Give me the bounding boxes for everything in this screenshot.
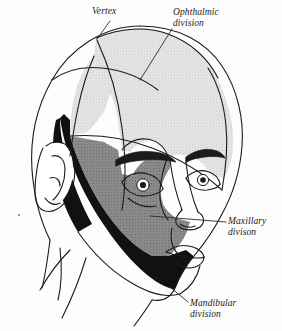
label-ophthalmic-division: Ophthalmic division — [173, 7, 219, 28]
label-mandibular-line1: Mandibular — [190, 298, 236, 308]
label-vertex: Vertex — [92, 6, 116, 17]
neck-contour-left — [58, 248, 61, 300]
anatomical-figure: Vertex Ophthalmic division Maxillary div… — [0, 0, 282, 331]
nose-bridge-left — [170, 160, 182, 210]
label-mandibular-line2: division — [190, 309, 236, 320]
right-pupil — [200, 177, 206, 183]
left-pupil — [140, 182, 146, 188]
label-maxillary-division: Maxillary divison — [228, 216, 266, 237]
label-maxillary-line2: divison — [228, 227, 266, 238]
head-diagram-svg — [0, 0, 282, 331]
label-ophthalmic-line1: Ophthalmic — [173, 7, 219, 17]
neck-line-front — [134, 300, 152, 326]
trapezius-line — [40, 250, 70, 290]
label-mandibular-division: Mandibular division — [190, 298, 236, 319]
stray-dot-artifact — [18, 214, 20, 216]
label-vertex-line1: Vertex — [92, 6, 116, 16]
sternocleidomastoid-line — [62, 258, 86, 318]
mandibular-leader-line — [170, 287, 188, 302]
label-maxillary-line1: Maxillary — [228, 216, 266, 226]
label-ophthalmic-line2: division — [173, 18, 219, 29]
